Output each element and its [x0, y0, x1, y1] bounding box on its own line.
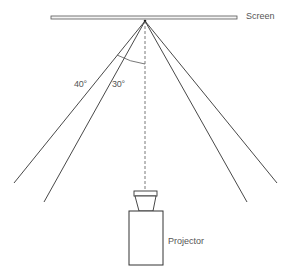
- ray-outer-right: [145, 21, 277, 183]
- projector-label: Projector: [168, 236, 204, 246]
- lens-rim: [134, 191, 157, 196]
- screen-label: Screen: [246, 11, 275, 21]
- diagram-canvas: [0, 0, 290, 276]
- angle-30-label: 30°: [112, 79, 125, 89]
- lens-barrel: [135, 196, 156, 211]
- ray-outer-left: [14, 21, 145, 183]
- ray-inner-right: [145, 21, 247, 202]
- angle-40-label: 40°: [74, 79, 87, 89]
- projector-body: [129, 211, 163, 265]
- screen-bar: [51, 16, 237, 19]
- projector-lens: [134, 191, 157, 211]
- projection-rays: [14, 21, 277, 202]
- projector-viewing-angle-diagram: Screen 40° 30° Projector: [0, 0, 290, 276]
- angle-arc: [117, 55, 145, 64]
- ray-inner-left: [44, 21, 145, 202]
